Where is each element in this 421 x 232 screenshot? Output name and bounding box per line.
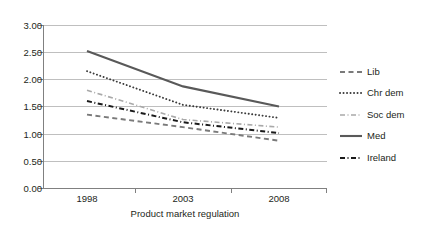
y-axis-label-1-00: 1.00 bbox=[2, 130, 42, 140]
legend-label-med: Med bbox=[367, 131, 385, 141]
legend-item-lib[interactable]: Lib bbox=[340, 61, 421, 83]
plot-area bbox=[43, 25, 327, 188]
legend-swatch-soc-dem-icon bbox=[340, 110, 362, 120]
x-axis-line bbox=[43, 188, 327, 189]
legend-item-ireland[interactable]: Ireland bbox=[340, 147, 421, 169]
x-axis-title: Product market regulation bbox=[43, 208, 327, 219]
x-axis-label-2003: 2003 bbox=[153, 193, 213, 204]
legend-item-chr-dem[interactable]: Chr dem bbox=[340, 83, 421, 105]
y-axis-label-3-00: 3.00 bbox=[2, 21, 42, 31]
y-axis-label-0-50: 0.50 bbox=[2, 157, 42, 167]
x-axis-label-1998: 1998 bbox=[57, 193, 117, 204]
y-axis-line bbox=[43, 25, 44, 189]
gridline-1-00 bbox=[43, 134, 327, 135]
gridline-2-50 bbox=[43, 52, 327, 53]
gridline-1-50 bbox=[43, 106, 327, 107]
legend-item-soc-dem[interactable]: Soc dem bbox=[340, 104, 421, 126]
x-axis-label-2008: 2008 bbox=[249, 193, 309, 204]
legend-label-soc-dem: Soc dem bbox=[367, 110, 405, 120]
legend-label-lib: Lib bbox=[367, 67, 380, 77]
legend-label-ireland: Ireland bbox=[367, 153, 396, 163]
legend-swatch-lib-icon bbox=[340, 67, 362, 77]
legend-label-chr-dem: Chr dem bbox=[367, 88, 403, 98]
gridline-2-00 bbox=[43, 79, 327, 80]
legend-swatch-med-icon bbox=[340, 131, 362, 141]
y-axis-label-0-00: 0.00 bbox=[2, 184, 42, 194]
gridline-3-00 bbox=[43, 25, 327, 26]
legend-swatch-ireland-icon bbox=[340, 153, 362, 163]
y-axis-label-2-50: 2.50 bbox=[2, 48, 42, 58]
x-tick-2003 bbox=[231, 188, 232, 193]
legend-item-med[interactable]: Med bbox=[340, 126, 421, 148]
x-tick-2008 bbox=[326, 188, 327, 193]
gridline-0-50 bbox=[43, 161, 327, 162]
y-axis-label-2-00: 2.00 bbox=[2, 75, 42, 85]
line-chart: 3.00 2.50 2.00 1.50 1.00 0.50 0.00 1998 … bbox=[0, 0, 421, 232]
legend-swatch-chr-dem-icon bbox=[340, 88, 362, 98]
y-axis-label-1-50: 1.50 bbox=[2, 102, 42, 112]
x-tick-1998 bbox=[135, 188, 136, 193]
chart-legend: Lib Chr dem Soc dem Med Ireland bbox=[340, 61, 421, 169]
